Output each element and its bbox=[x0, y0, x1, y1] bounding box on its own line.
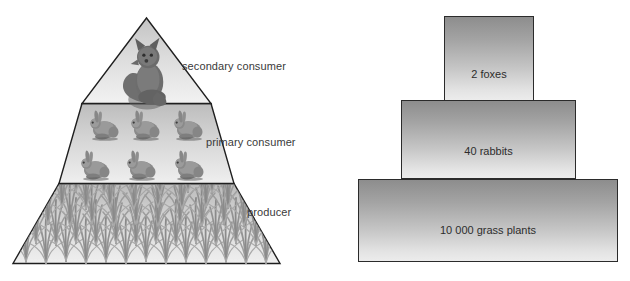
bar-label-foxes: 2 foxes bbox=[471, 68, 506, 80]
bar-rabbits: 40 rabbits bbox=[401, 100, 576, 179]
bar-label-grass-plants: 10 000 grass plants bbox=[440, 224, 536, 236]
pyramid-label-producer: producer bbox=[247, 206, 291, 218]
bar-foxes: 2 foxes bbox=[444, 16, 534, 101]
bar-label-rabbits: 40 rabbits bbox=[464, 145, 512, 157]
pyramid-label-secondary-consumer: secondary consumer bbox=[182, 60, 286, 72]
pyramid-label-primary-consumer: primary consumer bbox=[206, 136, 296, 148]
bar-grass-plants: 10 000 grass plants bbox=[358, 179, 618, 262]
ecological-pyramid-figure: secondary consumer primary consumer prod… bbox=[0, 0, 630, 281]
